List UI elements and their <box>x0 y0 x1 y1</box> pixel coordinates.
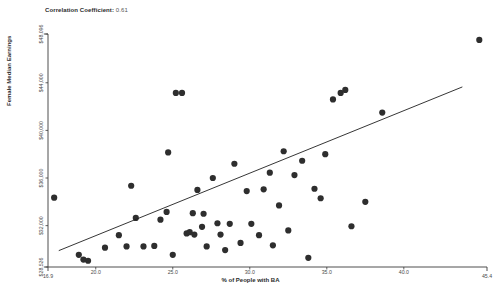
y-tick-label: $44,000 <box>38 73 44 92</box>
plot-area: $28,526$32,000$36,000$40,000$44,000$48,0… <box>0 0 501 296</box>
x-tick-label: 20.0 <box>91 269 101 275</box>
data-point-series <box>51 37 482 264</box>
x-axis-line <box>48 267 487 271</box>
data-point <box>237 240 243 246</box>
x-tick-label: 16.9 <box>43 273 53 279</box>
data-point <box>311 186 317 192</box>
data-point <box>244 188 250 194</box>
data-point <box>116 232 122 238</box>
data-point <box>285 227 291 233</box>
y-tick-label: $32,000 <box>38 216 44 235</box>
data-point <box>248 221 254 227</box>
x-tick-label: 35.0 <box>322 269 332 275</box>
data-point <box>299 158 305 164</box>
trend-line <box>59 87 463 251</box>
data-point <box>330 96 336 102</box>
x-tick-label: 30.0 <box>245 269 255 275</box>
x-tick-group: 16.920.025.030.035.040.045.4 <box>43 267 492 279</box>
x-tick-label: 25.0 <box>168 269 178 275</box>
data-point <box>191 231 197 237</box>
data-point <box>76 252 82 258</box>
y-tick-group: $28,526$32,000$36,000$40,000$44,000$48,0… <box>38 25 48 277</box>
data-point <box>476 37 482 43</box>
data-point <box>267 170 273 176</box>
data-point <box>362 199 368 205</box>
y-tick-label: $40,000 <box>38 121 44 140</box>
data-point <box>128 183 134 189</box>
data-point <box>140 243 146 249</box>
data-point <box>318 195 324 201</box>
y-tick-label: $48,096 <box>38 25 44 44</box>
data-point <box>200 211 206 217</box>
data-point <box>379 109 385 115</box>
data-point <box>276 202 282 208</box>
x-tick-label: 40.0 <box>399 269 409 275</box>
data-point <box>164 209 170 215</box>
data-point <box>214 220 220 226</box>
data-point <box>204 243 210 249</box>
y-axis: $28,526$32,000$36,000$40,000$44,000$48,0… <box>38 25 48 277</box>
data-point <box>270 242 276 248</box>
data-point <box>210 175 216 181</box>
data-point <box>85 258 91 264</box>
data-point <box>256 232 262 238</box>
data-point <box>217 231 223 237</box>
x-axis: 16.920.025.030.035.040.045.4 <box>43 267 492 279</box>
data-point <box>190 210 196 216</box>
data-point <box>281 148 287 154</box>
data-point <box>222 247 228 253</box>
data-point <box>231 161 237 167</box>
x-tick-label: 45.4 <box>482 273 492 279</box>
y-axis-line <box>44 34 48 267</box>
data-point <box>165 149 171 155</box>
scatter-chart: Correlation Coefficient: 0.61 Female Med… <box>0 0 501 296</box>
data-point <box>227 221 233 227</box>
data-point <box>348 223 354 229</box>
data-point <box>123 243 129 249</box>
data-point <box>151 243 157 249</box>
y-tick-label: $36,000 <box>38 169 44 188</box>
data-point <box>291 172 297 178</box>
data-point <box>199 224 205 230</box>
data-point <box>173 90 179 96</box>
data-point <box>157 217 163 223</box>
data-point <box>179 90 185 96</box>
data-point <box>342 87 348 93</box>
data-point <box>261 186 267 192</box>
data-point <box>322 151 328 157</box>
data-point <box>51 195 57 201</box>
data-point <box>170 252 176 258</box>
data-point <box>194 187 200 193</box>
data-point <box>102 245 108 251</box>
data-point <box>305 255 311 261</box>
